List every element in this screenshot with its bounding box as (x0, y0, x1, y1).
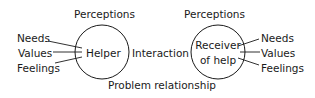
receiver-feelings-label: Feelings (261, 63, 304, 74)
helper-circle-label: Helper (86, 48, 121, 59)
receiver-circle-label-line1: Receiver (193, 40, 243, 51)
receiver-perceptions-label: Perceptions (184, 9, 245, 20)
helper-feelings-label: Feelings (17, 63, 60, 74)
problem-relationship-label: Problem relationship (108, 80, 216, 91)
receiver-values-label: Values (261, 48, 295, 59)
helper-perceptions-label: Perceptions (74, 9, 135, 20)
helping-relationship-diagram: Perceptions Needs Values Feelings Helper… (0, 0, 315, 98)
receiver-circle-label-line2: of help (193, 55, 243, 66)
helper-values-label: Values (18, 48, 52, 59)
interaction-label: Interaction (132, 48, 189, 59)
receiver-circle (191, 25, 245, 79)
helper-needs-label: Needs (17, 33, 50, 44)
receiver-needs-label: Needs (261, 33, 294, 44)
